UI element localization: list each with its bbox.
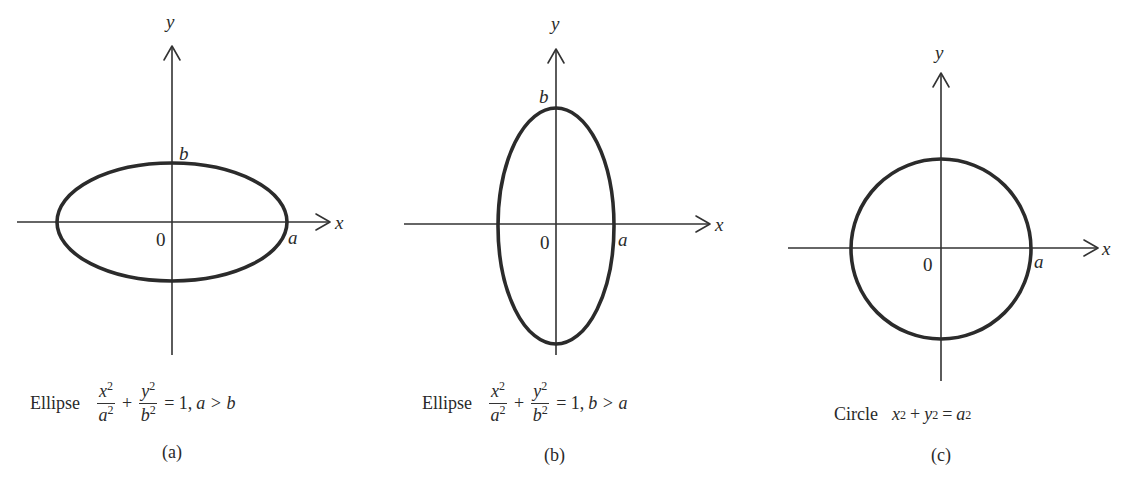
fraction-x: x2 a2 bbox=[97, 381, 115, 426]
equation-c: Circle x2 + y2 = a2 bbox=[834, 404, 971, 425]
x-axis-label: x bbox=[335, 213, 343, 232]
equation-b: Ellipse x2 a2 + y2 b2 = 1, b > a bbox=[422, 381, 627, 426]
y-axis-label: y bbox=[551, 14, 559, 33]
y-axis-label: y bbox=[166, 12, 174, 31]
caption-a: (a) bbox=[162, 443, 182, 461]
fraction-y: y2 b2 bbox=[531, 381, 549, 426]
shape-name: Ellipse bbox=[422, 393, 472, 414]
equation-a: Ellipse x2 a2 + y2 b2 = 1, a > b bbox=[30, 381, 235, 426]
figure-b-axes bbox=[404, 49, 710, 355]
figure-c-axes bbox=[788, 73, 1098, 381]
caption-c: (c) bbox=[931, 446, 951, 464]
shape-name: Ellipse bbox=[30, 393, 80, 414]
fraction-y: y2 b2 bbox=[139, 381, 157, 426]
shape-name: Circle bbox=[834, 404, 878, 425]
fraction-x: x2 a2 bbox=[489, 381, 507, 426]
b-intercept-label: b bbox=[179, 144, 189, 163]
condition: a > b bbox=[196, 393, 235, 414]
a-intercept-label: a bbox=[618, 230, 628, 249]
a-intercept-label: a bbox=[1034, 252, 1044, 271]
x-axis-label: x bbox=[715, 215, 723, 234]
origin-label: 0 bbox=[923, 255, 933, 274]
a-intercept-label: a bbox=[288, 228, 298, 247]
x-axis-label: x bbox=[1102, 239, 1110, 258]
y-axis-label: y bbox=[935, 43, 943, 62]
caption-b: (b) bbox=[544, 446, 565, 464]
origin-label: 0 bbox=[156, 230, 166, 249]
b-intercept-label: b bbox=[539, 87, 549, 106]
condition: b > a bbox=[588, 393, 627, 414]
origin-label: 0 bbox=[540, 233, 550, 252]
